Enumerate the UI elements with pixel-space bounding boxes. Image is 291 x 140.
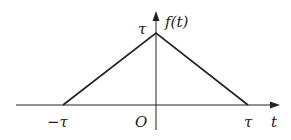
right-foot-label: τ <box>244 113 253 131</box>
x-axis-label: t <box>271 113 278 131</box>
peak-label: τ <box>138 20 147 38</box>
x-axis-arrow-icon <box>270 102 280 109</box>
origin-label: O <box>135 113 147 131</box>
function-label: f(t) <box>164 13 188 31</box>
y-axis-arrow-icon <box>153 11 160 21</box>
triangle-pulse-diagram: f(t) τ −τ O τ t <box>0 0 291 140</box>
left-foot-label: −τ <box>47 113 69 131</box>
